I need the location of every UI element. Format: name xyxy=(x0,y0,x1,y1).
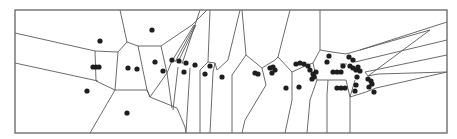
voronoi-site-point xyxy=(169,57,174,62)
voronoi-site-point xyxy=(342,85,347,90)
voronoi-site-point xyxy=(181,69,186,74)
voronoi-edge xyxy=(90,90,115,133)
voronoi-site-point xyxy=(340,63,345,68)
voronoi-edge xyxy=(120,10,127,42)
voronoi-site-point xyxy=(219,74,224,79)
voronoi-edge xyxy=(208,62,215,63)
voronoi-edge xyxy=(172,25,194,61)
voronoi-edge xyxy=(246,55,262,68)
voronoi-site-point xyxy=(269,70,274,75)
voronoi-edge xyxy=(292,66,305,72)
voronoi-edge xyxy=(376,72,447,88)
voronoi-site-point xyxy=(176,58,181,63)
voronoi-edge xyxy=(350,80,355,97)
voronoi-site-point xyxy=(84,88,89,93)
voronoi-edge xyxy=(310,80,317,100)
voronoi-site-point xyxy=(160,68,165,73)
voronoi-site-point xyxy=(353,82,358,87)
voronoi-edge xyxy=(378,72,447,74)
voronoi-site-point xyxy=(96,64,101,69)
diagram-frame xyxy=(15,10,447,133)
voronoi-site-point xyxy=(355,64,360,69)
voronoi-edge xyxy=(242,120,245,133)
voronoi-edge xyxy=(278,10,290,57)
voronoi-site-point xyxy=(350,57,355,62)
voronoi-edge xyxy=(95,51,118,52)
voronoi-edge xyxy=(15,33,95,51)
voronoi-edge xyxy=(365,55,447,72)
voronoi-diagram xyxy=(0,0,457,139)
voronoi-edge xyxy=(365,72,368,76)
voronoi-site-point xyxy=(183,60,188,65)
voronoi-edge xyxy=(278,57,292,72)
voronoi-site-point xyxy=(124,110,129,115)
voronoi-site-point xyxy=(324,59,329,64)
voronoi-site-point xyxy=(152,59,157,64)
voronoi-site-point xyxy=(207,63,212,68)
voronoi-edge xyxy=(350,92,366,97)
voronoi-site-point xyxy=(202,71,207,76)
voronoi-edge xyxy=(127,42,138,46)
voronoi-site-point xyxy=(354,74,359,79)
voronoi-site-point xyxy=(149,27,154,32)
voronoi-sites xyxy=(84,27,376,115)
voronoi-edge xyxy=(360,22,447,50)
voronoi-site-point xyxy=(371,89,376,94)
voronoi-edge xyxy=(182,10,200,64)
voronoi-edge xyxy=(217,60,228,70)
voronoi-site-point xyxy=(366,84,371,89)
voronoi-site-point xyxy=(352,88,357,93)
voronoi-edge xyxy=(150,73,167,97)
voronoi-edge xyxy=(15,63,98,81)
voronoi-edges xyxy=(15,10,447,133)
voronoi-edge xyxy=(118,42,127,52)
voronoi-edge xyxy=(150,97,177,108)
voronoi-site-point xyxy=(125,65,130,70)
voronoi-edge xyxy=(228,10,240,60)
voronoi-site-point xyxy=(192,62,197,67)
voronoi-edge xyxy=(313,50,320,63)
voronoi-site-point xyxy=(97,38,102,43)
voronoi-edge xyxy=(213,63,215,72)
voronoi-site-point xyxy=(313,69,318,74)
voronoi-edge xyxy=(175,25,195,62)
voronoi-edge xyxy=(332,52,346,54)
voronoi-edge xyxy=(167,73,172,108)
voronoi-edge xyxy=(320,50,332,52)
voronoi-site-point xyxy=(326,53,331,58)
voronoi-edge xyxy=(232,55,246,75)
voronoi-edge xyxy=(147,90,150,97)
voronoi-edge xyxy=(245,85,266,120)
voronoi-edge xyxy=(96,81,115,90)
voronoi-edge xyxy=(177,108,185,127)
voronoi-site-point xyxy=(309,76,314,81)
voronoi-edge xyxy=(262,68,266,85)
voronoi-edge xyxy=(327,80,328,95)
voronoi-edge xyxy=(346,50,360,54)
voronoi-edge xyxy=(167,61,172,73)
voronoi-site-point xyxy=(283,85,288,90)
voronoi-edge xyxy=(285,100,292,133)
voronoi-site-point xyxy=(338,69,343,74)
voronoi-edge xyxy=(215,63,217,70)
voronoi-site-point xyxy=(134,66,139,71)
voronoi-edge xyxy=(173,67,178,110)
voronoi-edge xyxy=(208,10,210,62)
voronoi-edge xyxy=(210,72,213,133)
voronoi-site-point xyxy=(255,71,260,76)
voronoi-edge xyxy=(307,100,310,133)
voronoi-edge xyxy=(275,57,278,60)
voronoi-site-point xyxy=(296,84,301,89)
voronoi-edge xyxy=(186,68,190,133)
voronoi-edge xyxy=(242,10,246,55)
voronoi-edge xyxy=(200,62,208,70)
voronoi-edge xyxy=(115,52,118,90)
